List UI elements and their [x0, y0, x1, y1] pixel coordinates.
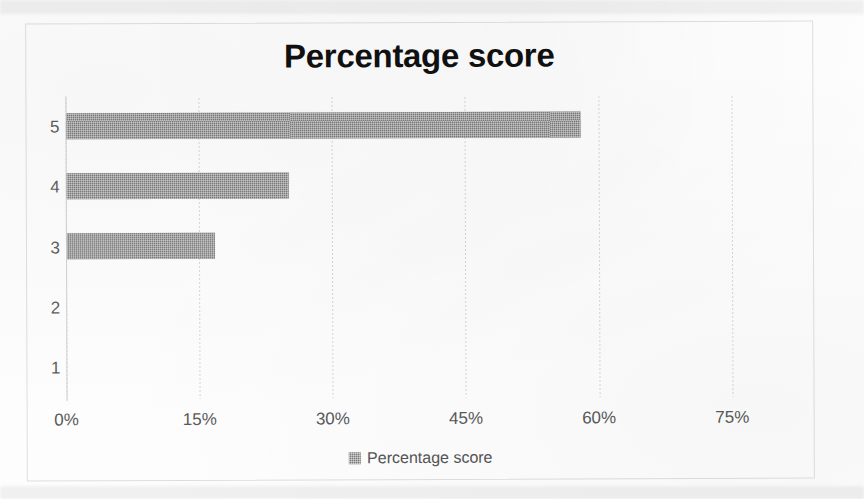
value-tick-label: 0%: [32, 410, 102, 430]
bar-row: [66, 96, 776, 159]
value-tick-label: 15%: [165, 410, 235, 430]
category-tick-label: 3: [36, 238, 60, 258]
bar-row: [67, 276, 777, 339]
value-tick-label: 30%: [298, 409, 368, 429]
category-tick-label: 1: [36, 358, 60, 378]
chart-frame: Percentage score 54321 0%15%30%45%60%75%…: [25, 20, 815, 481]
bar: [67, 173, 289, 200]
value-tick-label: 75%: [697, 408, 767, 428]
bar-row: [67, 216, 777, 279]
category-tick-label: 5: [35, 117, 59, 137]
scan-canvas: Percentage score 54321 0%15%30%45%60%75%…: [0, 0, 864, 499]
bar: [67, 233, 215, 260]
category-tick-label: 2: [36, 298, 60, 318]
value-tick-label: 60%: [564, 408, 634, 428]
chart-legend: Percentage score: [28, 447, 814, 468]
bar-row: [67, 156, 777, 219]
bar-row: [67, 336, 777, 399]
category-tick-label: 4: [36, 178, 60, 198]
plot-area: 54321 0%15%30%45%60%75%: [65, 96, 776, 400]
value-tick-label: 45%: [431, 409, 501, 429]
legend-label: Percentage score: [367, 449, 492, 467]
chart-title: Percentage score: [26, 35, 812, 76]
legend-swatch-icon: [349, 452, 361, 464]
bar-series: [65, 96, 775, 99]
bar: [66, 111, 580, 139]
